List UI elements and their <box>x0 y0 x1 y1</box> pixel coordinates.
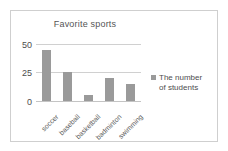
bar-basketball <box>84 95 93 101</box>
axis-baseline <box>36 101 141 102</box>
y-axis-tick-50: 50 <box>22 40 32 50</box>
plot-area: 50 25 0 <box>36 44 141 102</box>
bar-swimming <box>126 84 135 101</box>
legend-swatch-icon <box>151 75 156 80</box>
x-axis-label-soccer: soccer <box>40 113 60 133</box>
bar-baseball <box>63 72 72 101</box>
x-axis-labels: soccer baseball basketball badminton swi… <box>36 103 141 141</box>
chart-legend: The number of students <box>151 73 217 93</box>
chart-frame: Favorite sports 50 25 0 soccer baseball … <box>10 10 218 142</box>
bar-soccer <box>42 50 51 101</box>
y-axis-tick-0: 0 <box>27 97 32 107</box>
legend-entry-label: The number of students <box>159 73 202 93</box>
bar-group <box>36 44 141 101</box>
y-axis-tick-25: 25 <box>22 68 32 78</box>
legend-label-line1: The number <box>159 73 202 83</box>
legend-label-line2: of students <box>159 83 202 93</box>
chart-title: Favorite sports <box>11 19 159 29</box>
bar-badminton <box>105 78 114 101</box>
